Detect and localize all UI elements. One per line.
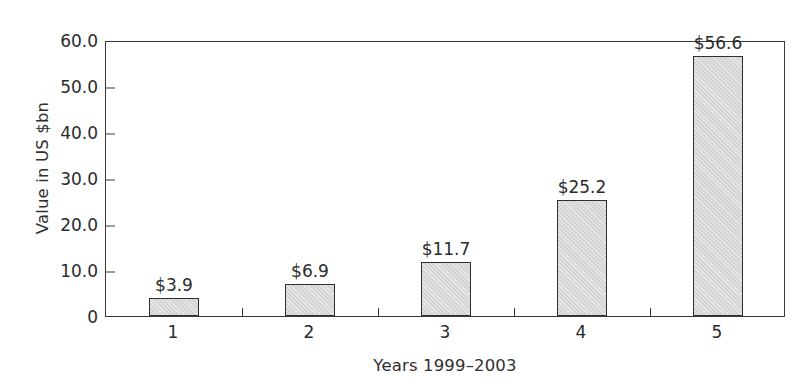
bar xyxy=(693,56,743,316)
x-axis-tick-label: 4 xyxy=(576,322,587,342)
x-axis-title-text: Years 1999–2003 xyxy=(373,356,516,375)
y-axis-tick-label: 40.0 xyxy=(0,123,98,143)
y-axis-tick-label: 60.0 xyxy=(0,31,98,51)
y-axis-tick-label: 10.0 xyxy=(0,261,98,281)
bar xyxy=(285,284,335,316)
y-axis-tick-mark xyxy=(106,134,115,135)
plot-area: $3.9$6.9$11.7$25.2$56.6 xyxy=(105,41,785,317)
x-axis-tick-label: 1 xyxy=(168,322,179,342)
y-axis-tick-label: 0 xyxy=(0,307,98,327)
bar xyxy=(557,200,607,316)
x-axis-tick-label: 3 xyxy=(440,322,451,342)
x-axis-tick-label: 5 xyxy=(712,322,723,342)
x-axis-tick-label: 2 xyxy=(304,322,315,342)
y-axis-tick-label: 30.0 xyxy=(0,169,98,189)
y-axis-tick-label: 20.0 xyxy=(0,215,98,235)
bar-value-label: $25.2 xyxy=(558,177,607,197)
bar-chart: Value in US $bn 010.020.030.040.050.060.… xyxy=(0,0,808,386)
bar-value-label: $3.9 xyxy=(155,275,193,295)
x-axis-tick-mark xyxy=(514,308,515,316)
x-axis-tick-mark xyxy=(378,308,379,316)
x-axis-tick-mark xyxy=(242,308,243,316)
bar xyxy=(421,262,471,316)
x-axis-title: Years 1999–2003 xyxy=(105,356,785,375)
bar xyxy=(149,298,199,316)
bar-value-label: $56.6 xyxy=(694,33,743,53)
bar-value-label: $11.7 xyxy=(422,239,471,259)
y-axis-tick-mark xyxy=(106,272,115,273)
y-axis-tick-label: 50.0 xyxy=(0,77,98,97)
y-axis-tick-mark xyxy=(106,88,115,89)
bar-value-label: $6.9 xyxy=(291,261,329,281)
y-axis-tick-mark xyxy=(106,226,115,227)
y-axis-tick-labels: 010.020.030.040.050.060.0 xyxy=(0,0,98,386)
y-axis-tick-mark xyxy=(106,180,115,181)
x-axis-tick-mark xyxy=(650,308,651,316)
